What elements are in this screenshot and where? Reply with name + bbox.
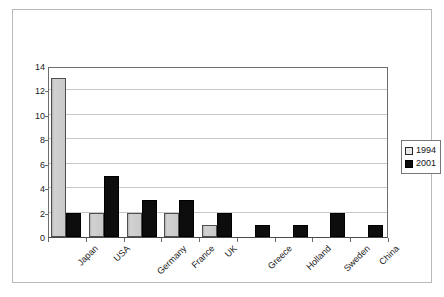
bar-2001 xyxy=(179,200,194,237)
y-axis: 02468101214 xyxy=(19,67,45,238)
x-axis-tick-mark xyxy=(48,238,49,242)
y-axis-tick-mark xyxy=(45,165,48,166)
plot-area xyxy=(48,67,388,238)
bar-1994 xyxy=(202,225,217,237)
bar-group xyxy=(276,68,314,237)
bar-group xyxy=(125,68,163,237)
x-axis-label: China xyxy=(378,244,401,267)
bar-1994 xyxy=(51,78,66,237)
bar-2001 xyxy=(142,200,157,237)
x-axis-tick-mark xyxy=(350,238,351,242)
bar-group xyxy=(200,68,238,237)
legend-swatch-1994 xyxy=(405,147,413,155)
x-axis-tick-mark xyxy=(161,238,162,242)
bar-1994 xyxy=(164,213,179,237)
legend-label: 1994 xyxy=(416,146,436,155)
y-axis-tick-mark xyxy=(45,91,48,92)
bar-2001 xyxy=(66,213,81,237)
y-axis-tick-label: 6 xyxy=(23,160,45,169)
x-axis-label: France xyxy=(191,244,217,270)
x-axis-label: Holland xyxy=(305,244,333,272)
bar-2001 xyxy=(330,213,345,237)
y-axis-tick-mark xyxy=(45,116,48,117)
x-axis-tick-mark xyxy=(199,238,200,242)
y-axis-tick-mark xyxy=(45,214,48,215)
legend-swatch-2001 xyxy=(405,160,413,168)
legend-item: 1994 xyxy=(405,144,436,157)
x-axis-tick-mark xyxy=(86,238,87,242)
x-axis-label: Japan xyxy=(76,244,100,268)
bar-group xyxy=(238,68,276,237)
y-axis-tick-label: 8 xyxy=(23,136,45,145)
y-axis-tick-label: 14 xyxy=(23,63,45,72)
bar-2001 xyxy=(217,213,232,237)
y-axis-tick-label: 0 xyxy=(23,234,45,243)
x-axis-tick-mark xyxy=(124,238,125,242)
x-axis-tick-mark xyxy=(237,238,238,242)
bar-group xyxy=(49,68,87,237)
bar-group xyxy=(162,68,200,237)
bar-2001 xyxy=(368,225,383,237)
y-axis-tick-label: 10 xyxy=(23,111,45,120)
x-axis-label: UK xyxy=(224,244,239,259)
y-axis-tick-label: 12 xyxy=(23,87,45,96)
y-axis-tick-label: 4 xyxy=(23,185,45,194)
y-axis-tick-label: 2 xyxy=(23,209,45,218)
x-axis-label: Sweden xyxy=(343,244,372,273)
chart-legend: 19942001 xyxy=(401,140,441,174)
bar-1994 xyxy=(127,213,142,237)
bar-1994 xyxy=(89,213,104,237)
x-axis-label: Greece xyxy=(267,244,294,271)
x-axis-tick-mark xyxy=(275,238,276,242)
bar-group xyxy=(87,68,125,237)
y-axis-tick-mark xyxy=(45,189,48,190)
x-axis-tick-mark xyxy=(312,238,313,242)
bar-2001 xyxy=(293,225,308,237)
x-axis-label: USA xyxy=(112,244,131,263)
bar-group xyxy=(351,68,389,237)
chart-frame: 02468101214 JapanUSAGermanyFranceUKGreec… xyxy=(12,9,432,283)
legend-item: 2001 xyxy=(405,157,436,170)
y-axis-tick-mark xyxy=(45,140,48,141)
x-axis-tick-mark xyxy=(388,238,389,242)
bar-2001 xyxy=(255,225,270,237)
bar-2001 xyxy=(104,176,119,237)
legend-label: 2001 xyxy=(416,159,436,168)
bar-group xyxy=(313,68,351,237)
x-axis-label: Germany xyxy=(155,244,188,277)
